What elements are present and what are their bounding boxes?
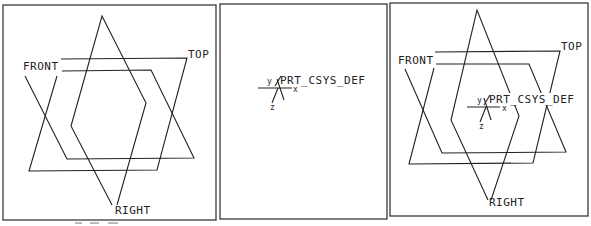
- csys-label: PRT_CSYS_DEF: [489, 93, 574, 106]
- top-plane: [29, 58, 187, 171]
- right-plane: [71, 16, 146, 205]
- top-label: TOP: [188, 48, 209, 61]
- right-label: RIGHT: [489, 196, 525, 209]
- figure-canvas: FRONT TOP RIGHT y x z PRT_CSYS_DEF FRONT…: [0, 0, 591, 226]
- front-plane: [25, 70, 194, 159]
- panel-frame: [390, 3, 588, 216]
- front-label: FRONT: [23, 60, 59, 73]
- front-label: FRONT: [398, 54, 434, 67]
- right-label: RIGHT: [115, 204, 151, 217]
- panel-frame: [3, 5, 216, 220]
- panel-datum-planes: FRONT TOP RIGHT: [3, 5, 216, 220]
- csys-label: PRT_CSYS_DEF: [280, 74, 365, 87]
- panel-coordinate-system: y x z PRT_CSYS_DEF: [220, 4, 387, 219]
- panel-frame: [220, 4, 387, 219]
- z-axis-label: z: [479, 122, 484, 131]
- y-axis-label: y: [267, 77, 272, 86]
- z-axis-label: z: [270, 103, 275, 112]
- panel-planes-and-csys: FRONT TOP RIGHT y x z PRT_CSYS_DEF: [390, 3, 588, 216]
- y-axis-label: y: [477, 96, 482, 105]
- top-label: TOP: [561, 40, 582, 53]
